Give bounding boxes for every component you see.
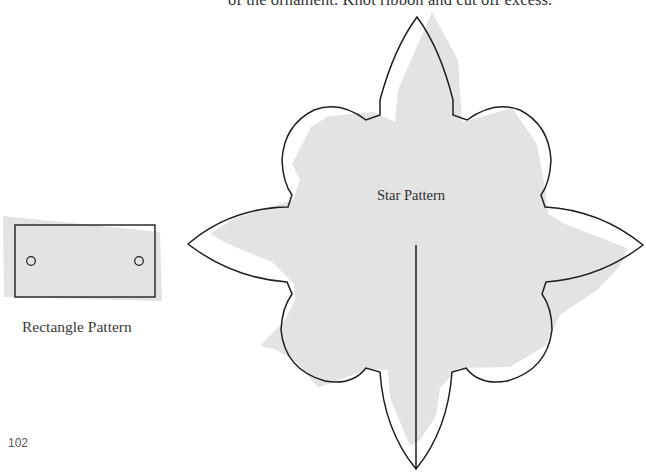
star-pattern xyxy=(188,12,643,469)
rectangle-pattern xyxy=(3,216,162,301)
rectangle-pattern-label: Rectangle Pattern xyxy=(22,318,132,336)
star-pattern-label: Star Pattern xyxy=(377,187,445,204)
page-number: 102 xyxy=(8,436,28,450)
star-shadow xyxy=(210,12,627,446)
pattern-illustrations xyxy=(0,0,646,472)
